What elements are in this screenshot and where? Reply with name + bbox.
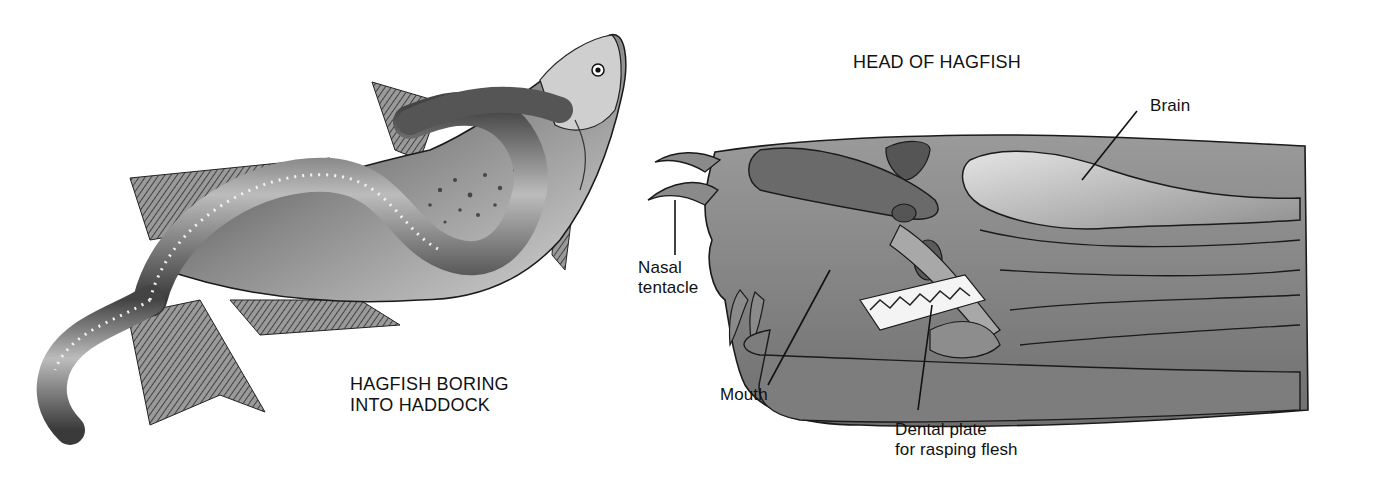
caption-line-2: INTO HADDOCK	[350, 395, 509, 416]
figure-title-head-of-hagfish: HEAD OF HAGFISH	[853, 52, 1021, 73]
haddock-tail-fin	[128, 300, 265, 425]
label-nasal-tentacle-line-2: tentacle	[638, 278, 698, 298]
label-mouth: Mouth	[720, 385, 768, 405]
nasal-tentacle-lower	[648, 183, 718, 205]
hagfish-haddock-illustration	[52, 34, 626, 430]
small-cavity	[892, 204, 916, 222]
illustration-canvas	[0, 0, 1385, 484]
label-dental-plate-line-2: for rasping flesh	[895, 440, 1018, 460]
hagfish-head-illustration	[648, 111, 1308, 426]
label-dental-plate-line-1: Dental plate	[895, 420, 1018, 440]
label-nasal-tentacle-line-1: Nasal	[638, 258, 698, 278]
hagfish-tail	[52, 300, 150, 430]
label-dental-plate: Dental plate for rasping flesh	[895, 420, 1018, 460]
haddock-lower-fin	[230, 300, 400, 335]
label-nasal-tentacle: Nasal tentacle	[638, 258, 698, 298]
caption-line-1: HAGFISH BORING	[350, 374, 509, 395]
caption-hagfish-boring: HAGFISH BORING INTO HADDOCK	[350, 374, 509, 416]
label-brain: Brain	[1150, 96, 1190, 116]
